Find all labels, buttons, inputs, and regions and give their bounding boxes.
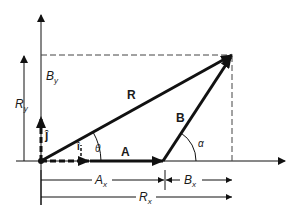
label-j-hat: ĵ <box>44 128 49 142</box>
label-theta: θ <box>95 143 101 154</box>
label-alpha: α <box>198 138 204 149</box>
label-a: A <box>121 145 130 159</box>
alpha-arc <box>181 133 196 161</box>
label-ry: Ry <box>15 97 29 113</box>
label-bx: Bx <box>184 173 197 189</box>
label-by: By <box>46 69 59 85</box>
label-b: B <box>176 111 185 125</box>
origin-point <box>38 158 44 164</box>
label-r: R <box>127 88 136 102</box>
label-rx: Rx <box>139 190 153 206</box>
vector-diagram: R A B θ α ĵ î By Ry Ax Bx Rx <box>0 0 299 215</box>
vector-b <box>163 57 231 161</box>
label-ax: Ax <box>94 173 108 189</box>
